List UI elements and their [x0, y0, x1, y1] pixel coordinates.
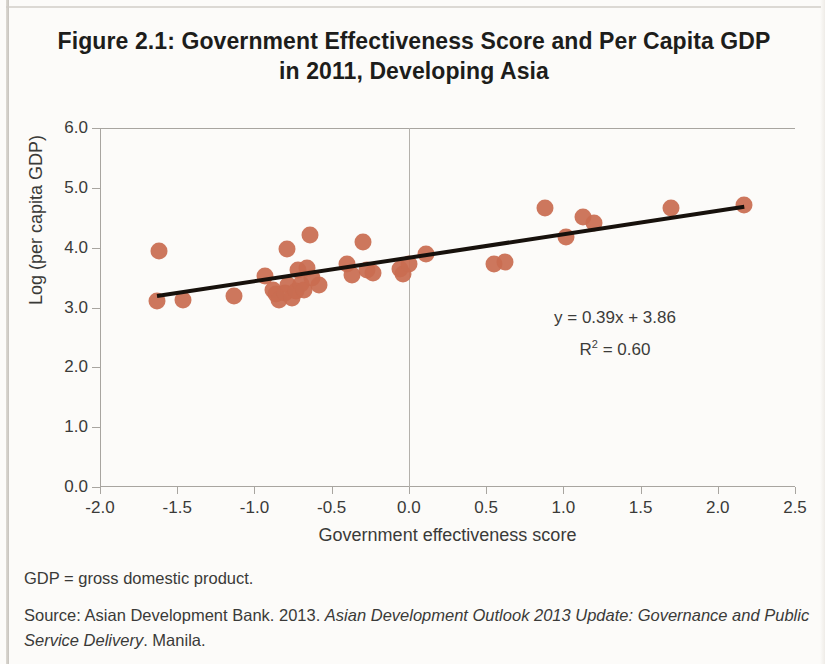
x-tick-label: 1.0: [552, 498, 576, 518]
source-suffix: . Manila.: [143, 631, 205, 649]
source-note: Source: Asian Development Bank. 2013. As…: [24, 603, 814, 653]
trendline: [157, 205, 744, 298]
source-prefix: Source: Asian Development Bank. 2013.: [24, 606, 325, 624]
y-tick-mark: [92, 427, 100, 428]
x-tick-mark: [718, 487, 719, 494]
figure-page: Figure 2.1: Government Effectiveness Sco…: [0, 0, 825, 664]
x-tick-label: -1.0: [240, 498, 269, 518]
x-tick-mark: [100, 487, 101, 494]
x-tick-label: 0.0: [397, 498, 421, 518]
y-tick-label: 1.0: [64, 417, 88, 437]
y-axis-title: Log (per capita GDP): [26, 135, 47, 305]
y-tick-mark: [92, 248, 100, 249]
axis-line-bottom: [100, 486, 795, 487]
y-tick-label: 2.0: [64, 357, 88, 377]
figure-title-line-1: Figure 2.1: Government Effectiveness Sco…: [58, 28, 771, 54]
zero-vertical-line: [409, 128, 410, 487]
x-axis-title: Government effectiveness score: [100, 525, 795, 546]
scan-edge-top: [6, 6, 821, 8]
x-tick-label: -0.5: [317, 498, 346, 518]
figure-notes: GDP = gross domestic product. Source: As…: [24, 566, 814, 653]
data-point: [226, 288, 243, 305]
data-point: [536, 199, 553, 216]
figure-title-line-2: in 2011, Developing Asia: [34, 56, 794, 86]
x-tick-mark: [641, 487, 642, 494]
y-tick-label: 0.0: [64, 477, 88, 497]
x-tick-label: 1.5: [629, 498, 653, 518]
y-tick-mark: [92, 308, 100, 309]
axis-line-left: [100, 128, 101, 487]
y-tick-label: 4.0: [64, 238, 88, 258]
data-point: [354, 233, 371, 250]
regression-equation: y = 0.39x + 3.86: [505, 305, 725, 331]
r-squared-label: R: [580, 340, 592, 359]
y-tick-label: 6.0: [64, 118, 88, 138]
y-tick-mark: [92, 128, 100, 129]
data-point: [311, 276, 328, 293]
x-tick-mark: [409, 487, 410, 494]
data-point: [150, 242, 167, 259]
y-tick-mark: [92, 367, 100, 368]
x-tick-mark: [486, 487, 487, 494]
scan-edge-left: [6, 0, 9, 664]
x-tick-mark: [254, 487, 255, 494]
data-point: [302, 226, 319, 243]
data-point: [365, 265, 382, 282]
y-tick-label: 3.0: [64, 298, 88, 318]
x-tick-label: -1.5: [163, 498, 192, 518]
scan-edge-right: [820, 0, 825, 664]
y-tick-label: 5.0: [64, 178, 88, 198]
axis-line-top: [100, 128, 795, 129]
x-tick-label: 2.5: [783, 498, 807, 518]
x-tick-mark: [332, 487, 333, 494]
abbreviation-note: GDP = gross domestic product.: [24, 566, 814, 591]
x-tick-mark: [795, 487, 796, 494]
x-tick-label: 2.0: [706, 498, 730, 518]
x-tick-label: 0.5: [474, 498, 498, 518]
r-squared-annotation: R2 = 0.60: [505, 331, 725, 363]
figure-title: Figure 2.1: Government Effectiveness Sco…: [34, 26, 794, 86]
r-squared-value: = 0.60: [598, 340, 650, 359]
x-tick-label: -2.0: [85, 498, 114, 518]
y-tick-mark: [92, 487, 100, 488]
x-tick-mark: [563, 487, 564, 494]
data-point: [496, 254, 513, 271]
regression-annotation: y = 0.39x + 3.86 R2 = 0.60: [505, 305, 725, 363]
data-point: [278, 241, 295, 258]
x-tick-mark: [177, 487, 178, 494]
y-tick-mark: [92, 188, 100, 189]
